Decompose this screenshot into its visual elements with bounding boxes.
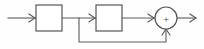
block-1[interactable] <box>36 5 62 31</box>
block-diagram-canvas: + <box>0 0 204 49</box>
block-diagram-svg: + <box>0 0 204 49</box>
output-wire <box>177 14 196 22</box>
block-2[interactable] <box>96 5 122 31</box>
input-wire <box>8 14 36 22</box>
block2-to-sum-wire <box>122 14 155 22</box>
summing-junction-plus-sign: + <box>163 13 169 25</box>
summing-junction[interactable]: + <box>155 7 177 29</box>
